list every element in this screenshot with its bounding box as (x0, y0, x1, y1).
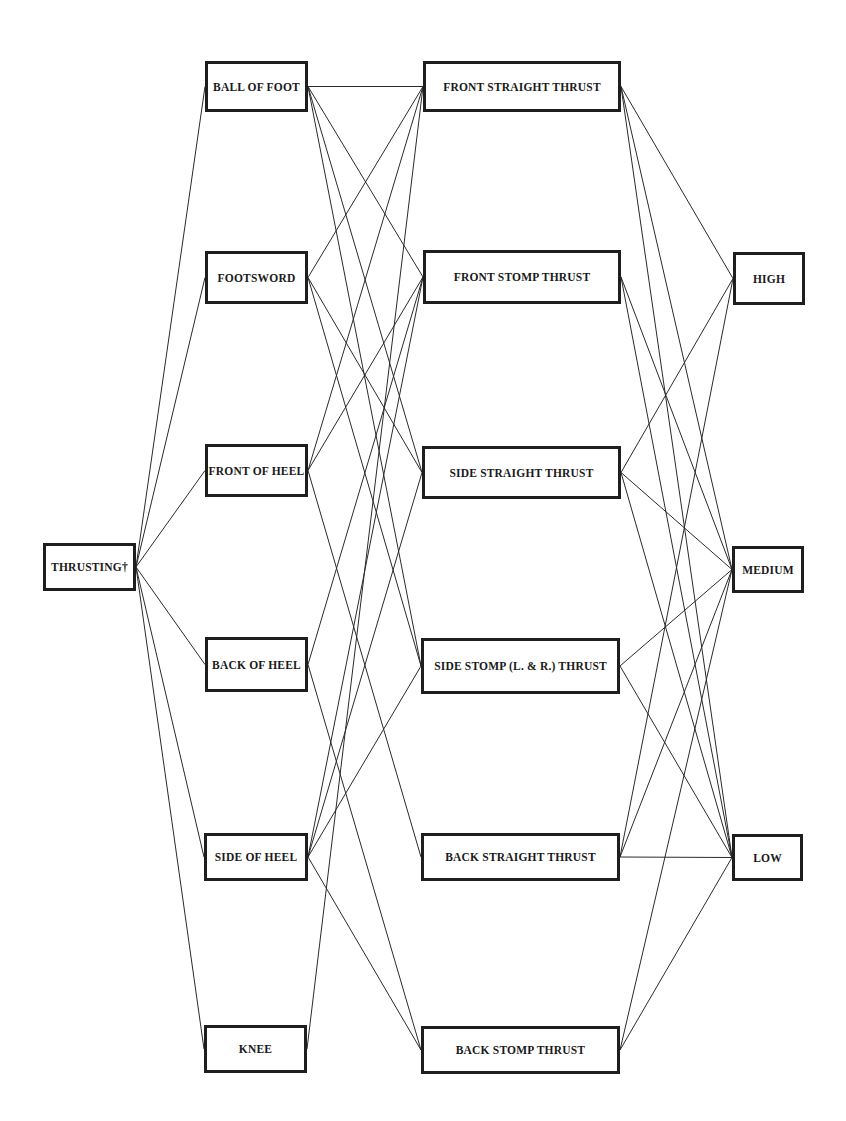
node-label: BACK OF HEEL (212, 659, 301, 671)
node-label: BALL OF FOOT (213, 81, 300, 93)
thrusting-kicks-diagram: THRUSTING† BALL OF FOOT FOOTSWORD FRONT … (0, 0, 846, 1121)
node-label: HIGH (753, 273, 785, 285)
connector-line (620, 666, 732, 858)
connector-line (620, 279, 733, 858)
node-label: FOOTSWORD (218, 272, 296, 284)
node-label: SIDE STRAIGHT THRUST (449, 467, 593, 479)
node-low: LOW (732, 834, 803, 881)
node-thrusting: THRUSTING† (43, 543, 136, 591)
node-front-of-heel: FRONT OF HEEL (205, 444, 308, 497)
node-medium: MEDIUM (732, 546, 804, 593)
connector-line (620, 570, 732, 1051)
node-footsword: FOOTSWORD (205, 251, 308, 304)
connector-line (621, 87, 732, 570)
node-label: MEDIUM (742, 564, 794, 576)
node-ball-of-foot: BALL OF FOOT (205, 61, 308, 112)
connector-line (136, 567, 205, 665)
node-label: FRONT STOMP THRUST (454, 271, 591, 283)
node-side-straight-thrust: SIDE STRAIGHT THRUST (422, 446, 621, 499)
connector-line (136, 87, 205, 568)
connector-line (308, 665, 421, 1051)
node-back-stomp-thrust: BACK STOMP THRUST (421, 1026, 620, 1074)
node-label: LOW (753, 852, 782, 864)
node-label: KNEE (239, 1043, 272, 1055)
connector-line (136, 567, 204, 857)
node-knee: KNEE (204, 1025, 307, 1073)
connector-line (621, 279, 733, 473)
connector-line (621, 473, 732, 570)
node-side-stomp-thrust: SIDE STOMP (L. & R.) THRUST (421, 638, 620, 694)
node-label: SIDE OF HEEL (215, 851, 298, 863)
connector-line (621, 87, 732, 858)
connector-line (308, 666, 421, 857)
connector-line (136, 278, 205, 568)
node-label: THRUSTING† (51, 561, 128, 573)
node-back-of-heel: BACK OF HEEL (205, 637, 308, 692)
node-label: BACK STOMP THRUST (456, 1044, 586, 1056)
node-front-straight-thrust: FRONT STRAIGHT THRUST (423, 61, 621, 112)
connector-line (620, 858, 732, 1051)
connector-line (308, 857, 421, 1050)
connector-line (621, 473, 732, 858)
node-back-straight-thrust: BACK STRAIGHT THRUST (421, 833, 620, 881)
connector-line (136, 567, 204, 1049)
connector-line (620, 570, 732, 858)
node-label: FRONT STRAIGHT THRUST (443, 81, 601, 93)
node-label: BACK STRAIGHT THRUST (445, 851, 596, 863)
connector-line (621, 277, 732, 570)
node-label: FRONT OF HEEL (209, 465, 305, 477)
node-side-of-heel: SIDE OF HEEL (204, 833, 308, 881)
node-high: HIGH (733, 252, 805, 305)
connector-line (620, 570, 732, 667)
node-front-stomp-thrust: FRONT STOMP THRUST (423, 250, 621, 304)
connector-line (136, 471, 205, 568)
connector-line (621, 87, 733, 279)
node-label: SIDE STOMP (L. & R.) THRUST (434, 660, 607, 672)
connector-line (620, 857, 732, 858)
connector-line (307, 87, 423, 1050)
